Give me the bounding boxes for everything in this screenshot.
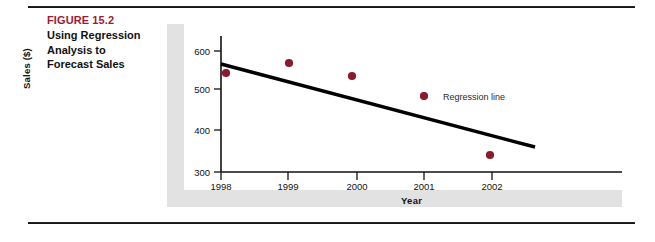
y-axis-ticks (214, 51, 221, 172)
x-axis-tick-labels: 1998 1999 2000 2001 2002 (210, 181, 502, 190)
figure-caption: FIGURE 15.2 Using Regression Analysis to… (47, 13, 157, 72)
x-axis-title: Year (401, 195, 422, 206)
x-axis-ticks (221, 172, 492, 180)
chart-frame-left-band (167, 24, 184, 207)
x-tick-label-2000: 2000 (346, 181, 367, 190)
figure-page: FIGURE 15.2 Using Regression Analysis to… (0, 0, 655, 242)
figure-title-line-2: Analysis to (47, 43, 157, 58)
y-tick-label-300: 300 (194, 167, 210, 178)
x-tick-label-1998: 1998 (210, 181, 231, 190)
y-tick-label-500: 500 (194, 84, 210, 95)
regression-line (221, 64, 535, 147)
bottom-divider-rule (28, 222, 635, 224)
figure-number: FIGURE 15.2 (47, 13, 157, 27)
x-tick-label-1999: 1999 (277, 181, 298, 190)
figure-title-line-3: Forecast Sales (47, 57, 157, 72)
y-axis-title: Sales ($) (21, 34, 32, 104)
x-tick-label-2002: 2002 (481, 181, 502, 190)
figure-title-line-1: Using Regression (47, 28, 157, 43)
data-point-2001 (420, 92, 428, 100)
data-point-1999 (285, 59, 293, 67)
y-tick-label-400: 400 (194, 125, 210, 136)
regression-line-label: Regression line (443, 92, 505, 102)
figure-title: Using Regression Analysis to Forecast Sa… (47, 28, 157, 72)
chart-plot-svg: 600 500 400 300 1998 1999 2000 2001 2002 (184, 24, 622, 190)
top-divider-rule (28, 6, 635, 8)
scatter-chart: 600 500 400 300 1998 1999 2000 2001 2002 (184, 24, 622, 190)
y-tick-label-600: 600 (194, 46, 210, 57)
x-tick-label-2001: 2001 (413, 181, 434, 190)
chart-frame-bottom-band (167, 190, 622, 207)
data-point-2000 (348, 72, 356, 80)
data-point-2002 (486, 151, 494, 159)
data-point-1998 (222, 69, 230, 77)
y-axis-tick-labels: 600 500 400 300 (194, 46, 210, 178)
